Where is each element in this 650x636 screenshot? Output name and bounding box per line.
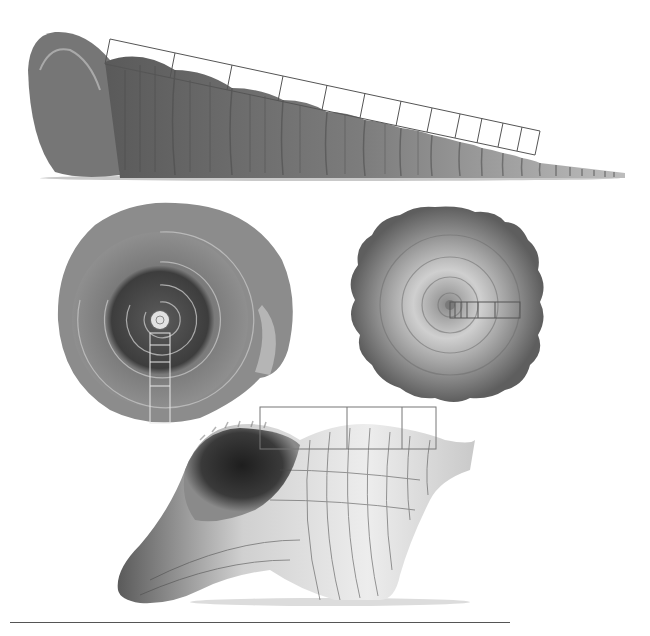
planispiral-snail-shell <box>58 203 293 423</box>
turritella-shell <box>28 32 625 181</box>
shell-figure <box>0 0 650 636</box>
spiny-spiral-shell <box>351 207 544 402</box>
bottom-divider <box>10 622 510 623</box>
